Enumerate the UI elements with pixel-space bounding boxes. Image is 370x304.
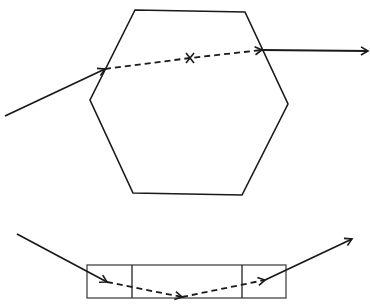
incoming-ray <box>17 234 107 282</box>
bottom-figure <box>17 234 352 298</box>
internal-dashed-ray-segment-2 <box>182 280 265 297</box>
top-figure <box>5 10 368 195</box>
internal-dashed-ray-segment-1 <box>107 282 182 297</box>
diagram-svg <box>0 0 370 304</box>
diagram-canvas <box>0 0 370 304</box>
hexagon-shape <box>90 10 288 195</box>
incoming-ray <box>5 69 105 116</box>
outgoing-ray <box>265 239 352 280</box>
outgoing-ray <box>262 50 368 51</box>
internal-dashed-ray <box>105 50 262 69</box>
